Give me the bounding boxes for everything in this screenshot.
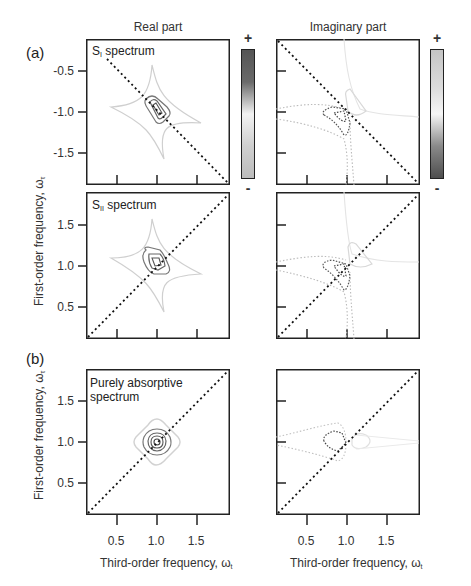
ytick-label: 1.0 (34, 435, 74, 449)
ytick-label: 0.5 (34, 300, 74, 314)
colorbar-real-plus: + (240, 30, 256, 46)
colorbar-imag-plus: + (429, 30, 445, 46)
colorbar-imag-minus: - (429, 180, 445, 196)
xtick-label: 0.5 (101, 534, 131, 548)
colorbar-real-minus: - (240, 180, 256, 196)
xtick-label: 1.0 (331, 534, 361, 548)
column-title-real: Real part (86, 20, 230, 34)
colorbar-imaginary (430, 49, 444, 179)
ytick-label: 0.5 (34, 476, 74, 490)
ytick-label: -1.5 (34, 146, 74, 160)
plot-s2-imaginary (276, 192, 420, 339)
plot-absorptive-imaginary (276, 369, 420, 515)
ytick-label: 1.5 (34, 394, 74, 408)
ytick-label: 1.0 (34, 259, 74, 273)
panel-label-b: (b) (26, 350, 44, 367)
plot-s1-real (86, 39, 230, 185)
xtick-label: 1.5 (371, 534, 401, 548)
ytick-label: 1.5 (34, 218, 74, 232)
xtick-label: 1.0 (141, 534, 171, 548)
plot-absorptive-real (86, 369, 230, 515)
x-axis-label-imaginary: Third-order frequency, ωt (290, 556, 422, 570)
plot-s1-imaginary (276, 39, 420, 185)
xtick-label: 0.5 (291, 534, 321, 548)
xtick-label: 1.5 (181, 534, 211, 548)
column-title-imaginary: Imaginary part (276, 20, 420, 34)
y-axis-label-a: First-order frequency, ωτ (32, 177, 46, 306)
ytick-label: -1.0 (34, 105, 74, 119)
plot-s2-real (86, 192, 230, 339)
x-axis-label-real: Third-order frequency, ωt (100, 556, 232, 570)
panel-label-a: (a) (26, 44, 44, 61)
colorbar-real (241, 49, 255, 179)
ytick-label: -0.5 (34, 64, 74, 78)
